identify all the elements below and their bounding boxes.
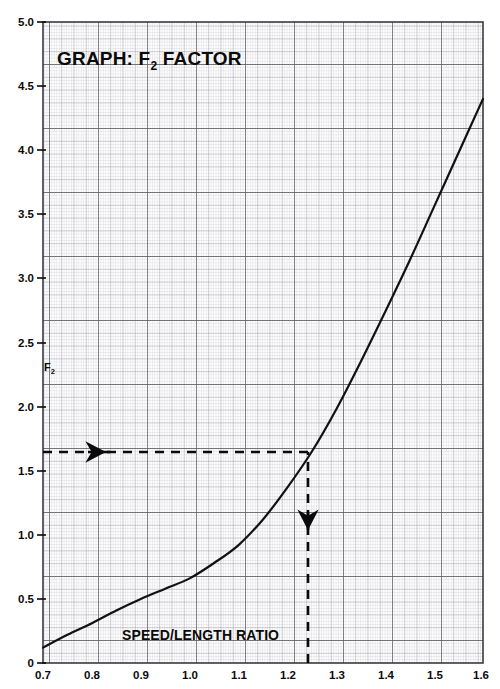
x-tick-label: 1.6 — [473, 669, 489, 681]
y-tick-label: 1.5 — [18, 465, 35, 477]
graph-f2-factor: 5.0 4.5 4.0 3.5 3.0 2.5 2.0 1.5 1.0 0.5 … — [0, 0, 500, 689]
plot-grid — [43, 22, 483, 663]
x-tick-label: 1.4 — [378, 669, 395, 681]
grid-major — [43, 22, 483, 663]
x-tick-label: 1.2 — [280, 669, 296, 681]
y-tick-label: 5.0 — [18, 16, 34, 28]
y-tick-label: 3.0 — [18, 272, 34, 284]
y-tick-label: 2.5 — [18, 337, 35, 349]
x-axis-title-text: SPEED/LENGTH RATIO — [122, 627, 279, 643]
chart-title-tail: FACTOR — [157, 48, 242, 69]
x-tick-label: 1.5 — [427, 669, 444, 681]
y-tick-label: 3.5 — [18, 208, 35, 220]
x-tick-label: 1.1 — [231, 669, 248, 681]
chart-canvas: 5.0 4.5 4.0 3.5 3.0 2.5 2.0 1.5 1.0 0.5 … — [0, 0, 500, 689]
y-tick-label: 4.5 — [18, 80, 35, 92]
x-tick-label: 1.0 — [182, 669, 198, 681]
y-tick-label: 0.5 — [18, 593, 35, 605]
y-axis-title-subscript: 2 — [51, 367, 55, 376]
x-tick-label: 0.9 — [133, 669, 149, 681]
chart-title-main: GRAPH: F — [57, 48, 150, 69]
x-tick-label: 1.3 — [329, 669, 345, 681]
y-tick-label: 1.0 — [18, 529, 34, 541]
x-axis-title: SPEED/LENGTH RATIO — [122, 627, 279, 643]
y-tick-label: 2.0 — [18, 401, 34, 413]
y-tick-label: 4.0 — [18, 144, 34, 156]
x-tick-label: 0.7 — [35, 669, 51, 681]
x-tick-label: 0.8 — [84, 669, 101, 681]
y-tick-label: 0 — [28, 657, 34, 669]
